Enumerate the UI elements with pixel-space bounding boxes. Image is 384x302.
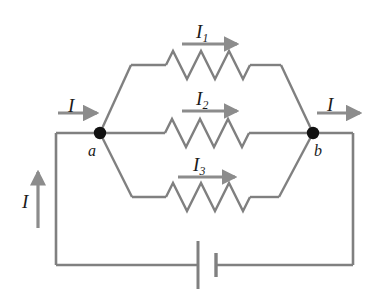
label-branch-2-subscript: 2	[203, 99, 209, 112]
label-branch-3-subscript: 3	[200, 165, 206, 178]
label-branch-2-symbol: I	[196, 88, 202, 109]
wire-a-to-branch1	[100, 65, 131, 133]
battery-symbol	[198, 241, 216, 289]
branch-middle	[100, 119, 313, 147]
wire-branch1-to-b	[281, 65, 313, 133]
wire-a-to-branch3	[100, 133, 132, 197]
label-current-return: I	[22, 192, 28, 211]
label-node-a: a	[88, 143, 96, 159]
node-a-dot	[94, 127, 106, 139]
circuit-diagram: I I I I1 I2 I3 a b	[0, 0, 384, 302]
label-node-b: b	[314, 143, 322, 159]
label-branch-1-subscript: 1	[203, 32, 209, 45]
label-current-in: I	[68, 96, 74, 115]
resistor-1	[166, 51, 250, 79]
wire-branch3-to-b	[279, 133, 313, 197]
label-branch-1-symbol: I	[196, 21, 202, 42]
node-b-dot	[307, 127, 319, 139]
resistor-2	[165, 119, 249, 147]
label-branch-2-current: I2	[196, 89, 208, 108]
label-branch-3-current: I3	[193, 155, 205, 174]
circuit-schematic-svg	[0, 0, 384, 302]
label-branch-3-symbol: I	[193, 154, 199, 175]
branch-bottom	[100, 133, 313, 211]
label-current-out: I	[327, 95, 333, 114]
label-branch-1-current: I1	[196, 22, 208, 41]
resistor-3	[166, 183, 250, 211]
